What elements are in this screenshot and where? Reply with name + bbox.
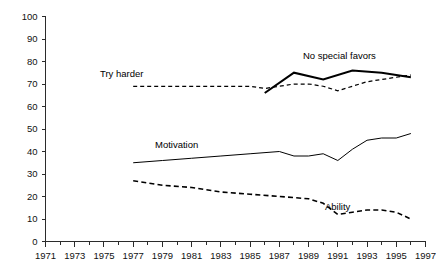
y-tick-label: 40	[27, 146, 38, 157]
y-tick-label: 20	[27, 191, 38, 202]
y-tick-label: 70	[27, 78, 38, 89]
y-tick-label: 10	[27, 213, 38, 224]
try-harder-label: Try harder	[100, 68, 143, 79]
y-tick-label: 60	[27, 101, 38, 112]
y-tick-label: 90	[27, 33, 38, 44]
chart-canvas: 0102030405060708090100 19711973197519771…	[0, 0, 436, 268]
line-chart: 0102030405060708090100 19711973197519771…	[0, 0, 436, 268]
no-special-favors-label: No special favors	[303, 50, 376, 61]
x-tick-label: 1983	[210, 250, 231, 261]
x-axis: 1971197319751977197919811983198519871989…	[35, 242, 436, 261]
x-tick-label: 1993	[356, 250, 377, 261]
x-tick-label: 1977	[123, 250, 144, 261]
x-tick-label: 1987	[269, 250, 290, 261]
y-axis: 0102030405060708090100	[22, 11, 46, 247]
y-tick-label: 100	[22, 11, 38, 22]
x-tick-label: 1995	[386, 250, 407, 261]
x-tick-label: 1971	[35, 250, 56, 261]
y-tick-label: 0	[32, 236, 37, 247]
series-no-special-favors	[265, 71, 411, 94]
x-tick-label: 1985	[240, 250, 261, 261]
ability-label: Ability	[325, 201, 350, 212]
x-tick-label: 1979	[152, 250, 173, 261]
x-tick-label: 1981	[181, 250, 202, 261]
y-tick-label: 30	[27, 168, 38, 179]
x-tick-label: 1989	[298, 250, 319, 261]
x-tick-label: 1991	[327, 250, 348, 261]
y-tick-label: 50	[27, 123, 38, 134]
series-ability	[133, 181, 411, 219]
x-tick-label: 1973	[64, 250, 85, 261]
x-tick-label: 1975	[93, 250, 114, 261]
y-tick-label: 80	[27, 56, 38, 67]
x-tick-label: 1997	[415, 250, 436, 261]
motivation-label: Motivation	[155, 139, 198, 150]
